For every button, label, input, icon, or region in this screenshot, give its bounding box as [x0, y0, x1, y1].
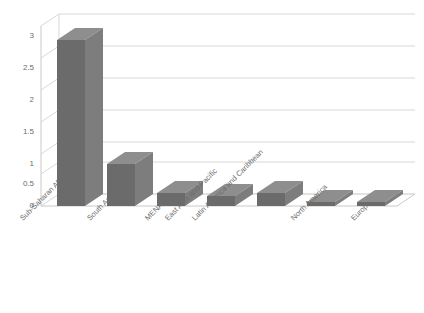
bar-chart: 3 2.5 2 1.5 1 0.5 0 Sub-Saharan Africa S…: [0, 0, 424, 313]
y-axis-tick-2: 2: [4, 96, 34, 104]
plot-area: 3 2.5 2 1.5 1 0.5 0 Sub-Saharan Africa S…: [0, 0, 424, 313]
bar-latin-america-and-caribbean: [257, 181, 303, 206]
y-axis-tick-3: 3: [4, 32, 34, 40]
y-axis-tick-1-5: 1.5: [4, 128, 34, 136]
chart-bars: [0, 0, 424, 313]
y-axis-tick-1: 1: [4, 160, 34, 168]
y-axis-tick-2-5: 2.5: [4, 64, 34, 72]
y-axis-tick-0-5: 0.5: [4, 180, 34, 188]
